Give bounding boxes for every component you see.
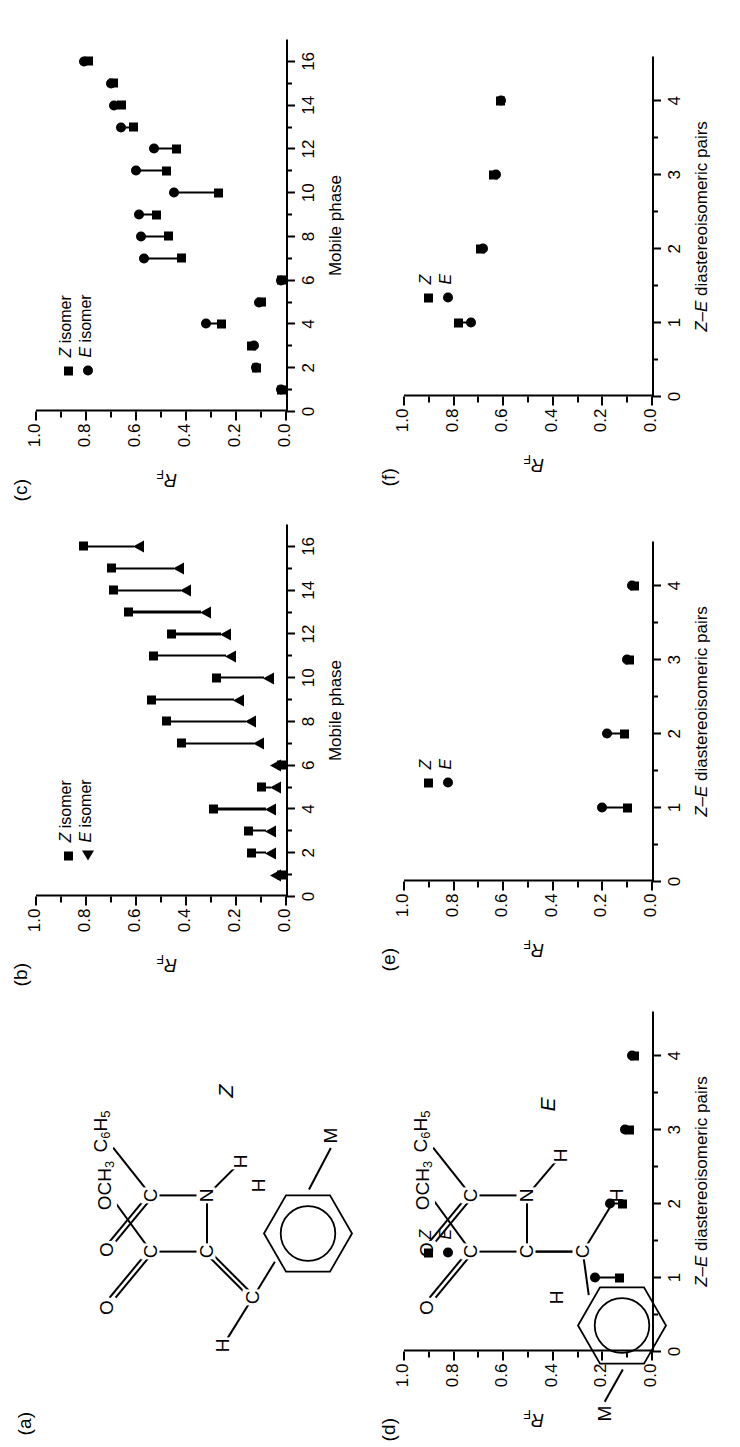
y-axis-tick-label: 0.0 — [641, 893, 661, 939]
y-axis-tick-label: 0.2 — [225, 908, 245, 954]
x-axis-minor-tick — [652, 621, 658, 623]
bond-central-n — [206, 1195, 208, 1251]
z-isomer-square-marker — [618, 1199, 627, 1208]
x-axis-tick-label: 14 — [299, 83, 319, 127]
x-axis-minor-tick — [652, 284, 658, 286]
y-axis-tick-label: 1.0 — [393, 893, 413, 939]
z-isomer-square-marker — [217, 319, 226, 328]
z-isomer-square-marker — [109, 585, 118, 594]
x-axis-tick-label: 3 — [665, 152, 685, 196]
y-axis-tick — [453, 396, 455, 405]
x-axis-tick-label: 12 — [299, 611, 319, 655]
y-axis-tick — [601, 881, 603, 890]
x-axis-tick — [652, 247, 661, 249]
y-axis-minor-tick — [577, 396, 579, 402]
x-axis-tick — [286, 279, 295, 281]
legend-square-icon — [64, 366, 73, 375]
x-axis-minor-tick — [286, 257, 292, 259]
z-isomer-square-marker — [117, 100, 126, 109]
pair-arrow-shaft — [166, 720, 246, 722]
x-axis-tick-label: 0 — [665, 859, 685, 903]
e-isomer-circle-marker — [605, 1198, 615, 1208]
y-axis-tick — [85, 411, 87, 420]
y-axis-tick-label: 0.8 — [443, 1363, 463, 1409]
x-axis-tick-label: 4 — [665, 1033, 685, 1077]
y-axis-tick-label: 1.0 — [25, 908, 45, 954]
y-axis-tick — [403, 1351, 405, 1360]
x-axis-tick — [652, 1276, 661, 1278]
z-isomer-square-marker — [615, 1273, 624, 1282]
y-axis-minor-tick — [260, 411, 262, 417]
x-axis-tick-label: 1 — [665, 1255, 685, 1299]
z-isomer-square-marker — [79, 541, 88, 550]
y-axis-minor-tick — [110, 896, 112, 902]
legend-label: Z — [417, 1229, 435, 1239]
x-axis-minor-tick — [286, 611, 292, 613]
z-isomer-square-marker — [167, 629, 176, 638]
x-axis-tick-label: 10 — [299, 170, 319, 214]
e-isomer-arrow-marker — [233, 694, 244, 706]
y-axis-minor-tick — [626, 1351, 628, 1357]
e-isomer-circle-marker — [136, 231, 146, 241]
atom-c6h5-z: C6H5 — [91, 1109, 113, 1153]
z-isomer-square-marker — [277, 870, 286, 879]
z-isomer-square-marker — [177, 738, 186, 747]
legend-triangle-icon — [82, 850, 94, 860]
x-axis-tick — [286, 589, 295, 591]
z-isomer-square-marker — [164, 231, 173, 240]
e-isomer-arrow-marker — [173, 562, 184, 574]
z-isomer-square-marker — [476, 244, 485, 253]
x-axis-tick-label: 4 — [299, 786, 319, 830]
y-axis-minor-tick — [577, 1351, 579, 1357]
x-axis-tick — [286, 60, 295, 62]
figure-canvas: (a) OOCH3CCCHNHCOC6H5HMZ OOCH3CCNHCOC6H5… — [0, 0, 740, 1447]
atom-h-n-z: H — [231, 1153, 250, 1169]
y-axis-tick-label: 1.0 — [393, 408, 413, 454]
y-axis-tick — [502, 1351, 504, 1360]
pair-arrow-shaft — [171, 632, 221, 634]
y-axis-tick-label: 0.4 — [542, 1363, 562, 1409]
x-axis-tick-label: 3 — [665, 1107, 685, 1151]
z-isomer-square-marker — [257, 782, 266, 791]
z-isomer-square-marker — [623, 803, 632, 812]
y-axis-tick-label: 0.2 — [591, 1363, 611, 1409]
z-isomer-square-marker — [109, 78, 118, 87]
y-axis-title: RF — [524, 937, 544, 959]
y-axis-minor-tick — [160, 896, 162, 902]
legend-square-icon — [424, 293, 433, 302]
legend-label: E — [437, 1228, 455, 1239]
y-axis-minor-tick — [626, 396, 628, 402]
x-axis-tick-label: 12 — [299, 126, 319, 170]
x-axis-tick — [286, 851, 295, 853]
y-axis-tick — [235, 896, 237, 905]
y-axis-tick — [85, 896, 87, 905]
legend-circle-icon — [443, 292, 453, 302]
x-axis-minor-tick — [652, 1239, 658, 1241]
y-axis-tick — [453, 1351, 455, 1360]
x-axis-title: Z–E diastereoisomeric pairs — [692, 541, 712, 881]
pair-connector — [144, 257, 182, 259]
atom-c-central-z: C — [197, 1243, 216, 1259]
x-axis-title: Z–E diastereoisomeric pairs — [692, 1011, 712, 1351]
z-isomer-square-marker — [107, 563, 116, 572]
pair-arrow-shaft — [114, 589, 182, 591]
x-axis-tick — [652, 1054, 661, 1056]
x-axis-minor-tick — [286, 388, 292, 390]
legend-square-icon — [64, 851, 73, 860]
y-axis-title: RF — [157, 952, 177, 974]
z-isomer-square-marker — [630, 1051, 639, 1060]
z-isomer-square-marker — [244, 826, 253, 835]
atom-h-vinyl-z: H — [213, 1337, 232, 1353]
atom-c-ester-z: C — [141, 1243, 160, 1259]
y-axis-minor-tick — [210, 411, 212, 417]
x-axis-line — [286, 524, 288, 896]
x-axis-title: Z–E diastereoisomeric pairs — [692, 56, 712, 396]
x-axis-tick-label: 10 — [299, 655, 319, 699]
e-isomer-circle-marker — [590, 1272, 600, 1282]
y-axis-minor-tick — [626, 881, 628, 887]
figure-rotation-wrapper: (a) OOCH3CCCHNHCOC6H5HMZ OOCH3CCNHCOC6H5… — [0, 0, 740, 1447]
x-axis-line — [652, 56, 654, 396]
panel-f-plot: (f) 0.00.20.40.60.81.001234RFZ–E diaster… — [370, 22, 740, 492]
z-isomer-square-marker — [212, 673, 221, 682]
x-axis-tick — [286, 104, 295, 106]
